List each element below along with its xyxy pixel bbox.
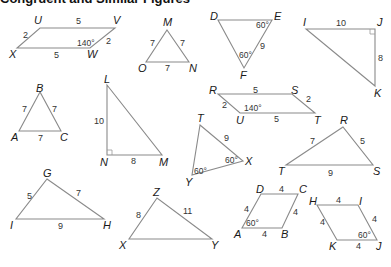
- vertex-label: Y: [211, 239, 219, 251]
- angle-label: 140°: [244, 103, 262, 113]
- side-length-label: 7: [38, 133, 43, 143]
- side-length-label: 7: [180, 38, 185, 48]
- vertex-label: T: [314, 114, 322, 126]
- vertex-label: T: [278, 165, 286, 177]
- triangle-outline: [129, 198, 212, 239]
- vertex-label: C: [299, 183, 307, 195]
- side-length-label: 9: [260, 41, 265, 51]
- vertex-label: K: [329, 240, 337, 252]
- side-length-label: 8: [136, 210, 141, 220]
- vertex-label: Y: [185, 176, 193, 188]
- vertex-label: N: [100, 156, 108, 168]
- vertex-label: I: [10, 219, 13, 231]
- side-length-label: 10: [94, 116, 104, 126]
- parallelogram-outline: [17, 28, 115, 48]
- right-angle-mark: [107, 150, 112, 155]
- angle-label: 140°: [77, 38, 95, 48]
- side-length-label: 4: [336, 195, 341, 205]
- figure-uvwx: UVWX5252140°: [8, 14, 122, 60]
- side-length-label: 2: [222, 100, 227, 110]
- vertex-label: S: [291, 84, 299, 96]
- vertex-label: L: [104, 73, 110, 85]
- vertex-label: S: [373, 165, 381, 177]
- figure-rstu: RSTU5252140°: [209, 84, 322, 126]
- triangle-outline: [286, 127, 373, 165]
- side-length-label: 7: [150, 38, 155, 48]
- side-length-label: 8: [378, 53, 383, 63]
- figures-canvas: UVWX5252140°MNO777DEF960°60°IJK108BAC777…: [0, 0, 391, 267]
- side-length-label: 2: [23, 30, 28, 40]
- side-length-label: 4: [244, 204, 249, 214]
- figure-abc: BAC777: [10, 82, 68, 143]
- vertex-label: H: [103, 219, 111, 231]
- angle-label: 60°: [246, 218, 259, 228]
- vertex-label: T: [197, 112, 205, 124]
- side-length-label: 7: [310, 136, 315, 146]
- right-triangle-outline: [107, 85, 162, 155]
- side-length-label: 4: [356, 241, 361, 251]
- side-length-label: 7: [22, 104, 27, 114]
- side-length-label: 9: [58, 221, 63, 231]
- side-length-label: 8: [131, 156, 136, 166]
- vertex-label: M: [163, 16, 173, 28]
- vertex-label: G: [43, 167, 52, 179]
- figure-lmn: LMN108: [94, 73, 169, 168]
- figure-rst: RTS759: [278, 114, 381, 178]
- side-length-label: 9: [224, 133, 229, 143]
- vertex-label: B: [281, 228, 288, 240]
- side-length-label: 4: [262, 229, 267, 239]
- side-length-label: 7: [52, 104, 57, 114]
- vertex-label: Z: [152, 186, 161, 198]
- vertex-label: W: [87, 48, 99, 60]
- vertex-label: V: [113, 14, 122, 26]
- vertex-label: U: [236, 114, 244, 126]
- figure-def: DEF960°60°: [210, 10, 282, 81]
- side-length-label: 4: [320, 217, 325, 227]
- vertex-label: I: [359, 195, 362, 207]
- vertex-label: H: [309, 195, 317, 207]
- figure-ijk: IJK108: [303, 16, 383, 99]
- side-length-label: 9: [328, 168, 333, 178]
- vertex-label: K: [374, 87, 382, 99]
- side-length-label: 2: [106, 36, 111, 46]
- side-length-label: 7: [76, 188, 81, 198]
- parallelogram-outline: [218, 94, 315, 113]
- angle-label: 60°: [225, 155, 238, 165]
- vertex-label: E: [274, 10, 282, 22]
- vertex-label: B: [36, 82, 43, 94]
- vertex-label: U: [34, 14, 42, 26]
- vertex-label: A: [233, 228, 241, 240]
- vertex-label: D: [256, 183, 264, 195]
- vertex-label: O: [138, 62, 147, 74]
- figure-xyz: ZXY811: [118, 186, 219, 251]
- vertex-label: X: [8, 48, 17, 60]
- side-length-label: 11: [183, 206, 192, 216]
- vertex-label: A: [10, 131, 18, 143]
- vertex-label: X: [118, 239, 127, 251]
- vertex-label: R: [340, 114, 348, 126]
- side-length-label: 5: [54, 50, 59, 60]
- right-triangle-outline: [306, 29, 375, 86]
- vertex-label: J: [376, 16, 383, 28]
- vertex-label: N: [189, 62, 197, 74]
- angle-label: 60°: [239, 50, 252, 60]
- vertex-label: D: [210, 10, 218, 22]
- side-length-label: 4: [279, 184, 284, 194]
- figure-ghi: GHI579: [10, 167, 111, 231]
- angle-label: 60°: [194, 166, 207, 176]
- side-length-label: 5: [253, 85, 258, 95]
- vertex-label: R: [209, 84, 217, 96]
- vertex-label: F: [240, 69, 248, 81]
- side-length-label: 5: [76, 16, 81, 26]
- figure-hijk: HIJK444460°: [309, 195, 382, 252]
- figure-mno: MNO777: [138, 16, 197, 74]
- angle-label: 60°: [358, 230, 371, 240]
- side-length-label: 4: [372, 214, 377, 224]
- side-length-label: 10: [336, 18, 346, 28]
- right-angle-mark: [370, 29, 375, 34]
- side-length-label: 7: [165, 63, 170, 73]
- side-length-label: 2: [306, 94, 311, 104]
- side-length-label: 5: [274, 114, 279, 124]
- angle-label: 60°: [256, 20, 269, 30]
- figure-abcd: DCBA444460°: [233, 183, 307, 240]
